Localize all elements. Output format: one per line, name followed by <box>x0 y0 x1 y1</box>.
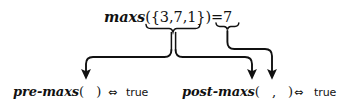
maxs-contract-diagram: maxs({3,7,1})=7 pre-maxs( ) ⇔ true post-… <box>0 0 361 108</box>
set-element-0: 3 <box>160 9 169 25</box>
pre-argument-slot <box>84 84 96 99</box>
post-close-paren: ) <box>288 84 293 99</box>
post-iff-icon: ⇔ <box>294 86 303 99</box>
arrow-set-to-pre-argument <box>86 50 171 74</box>
pre-condition-term: pre-maxs( ) <box>13 84 101 99</box>
post-condition-term: post-maxs( , ) <box>182 84 293 99</box>
set-element-1: 7 <box>174 9 183 25</box>
pre-close-paren: ) <box>96 84 101 99</box>
top-expression: maxs({3,7,1})=7 <box>104 8 232 25</box>
post-second-argument-slot <box>276 84 288 99</box>
post-first-argument-slot <box>260 84 272 99</box>
result-value: 7 <box>223 9 232 25</box>
post-function-name: post-maxs <box>182 84 255 99</box>
argument-stem <box>171 33 175 51</box>
pre-truth-value: true <box>126 86 148 99</box>
argument-underbrace-icon <box>146 25 200 33</box>
pre-function-name: pre-maxs <box>13 84 79 99</box>
set-open-brace: { <box>151 9 160 25</box>
set-element-2: 1 <box>187 9 196 25</box>
arrow-set-to-post-first-argument <box>176 50 252 74</box>
post-truth-value: true <box>314 86 336 99</box>
pre-iff-icon: ⇔ <box>108 86 117 99</box>
arrow-result-to-post-second-argument <box>227 31 272 74</box>
function-name-maxs: maxs <box>104 8 145 25</box>
equals-sign: = <box>211 9 223 25</box>
